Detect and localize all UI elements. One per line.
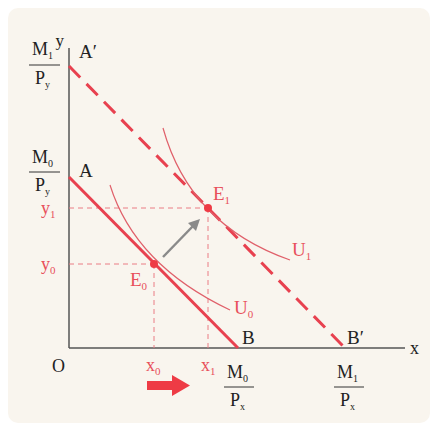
y0-tick-label: y0 [41,254,56,276]
income-increase-arrow-icon [147,375,190,396]
point-E0-label: E0 [130,269,148,292]
equilibrium-point-E1 [204,204,212,212]
budget-diagram: y x O A′ A B B′ E1 E0 U1 U0 y1 y0 M1 Py … [0,0,438,429]
x0-tick-label: x0 [146,355,161,377]
point-E1-label: E1 [213,183,230,206]
y-axis-label: y [56,31,65,50]
x1-tick-label: x1 [201,355,216,377]
curve-U1-label: U1 [292,239,311,262]
svg-text:Px: Px [230,390,245,412]
y1-tick-label: y1 [41,198,56,220]
svg-text:Py: Py [35,68,50,90]
point-A-prime-label: A′ [79,41,97,62]
svg-text:M0: M0 [227,362,248,384]
curve-U0-label: U0 [234,297,254,320]
svg-text:Py: Py [35,175,50,197]
point-B-prime-label: B′ [347,327,364,348]
x-intercept-M1-Px: M1 Px [334,362,364,412]
x-axis-label: x [410,338,419,358]
equilibrium-point-E0 [150,260,158,268]
svg-text:M0: M0 [32,147,53,169]
svg-text:M1: M1 [337,362,358,384]
x-intercept-M0-Px: M0 Px [224,362,254,412]
point-B-label: B [242,327,255,348]
svg-text:M1: M1 [32,39,53,61]
point-A-label: A [79,160,93,181]
indifference-curve-U0 [110,185,230,310]
origin-label: O [52,356,65,376]
shift-arrow-icon [163,219,200,257]
svg-text:Px: Px [340,390,355,412]
y-intercept-M0-Py: M0 Py [29,147,60,197]
